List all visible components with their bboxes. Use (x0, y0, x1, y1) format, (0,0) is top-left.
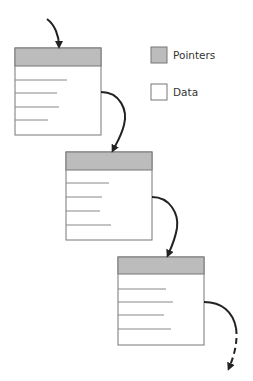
legend-swatch-pointers (151, 47, 167, 63)
list-node-2 (66, 152, 152, 240)
next-pointer-arrow-2 (152, 197, 177, 255)
next-pointer-arrow-1 (101, 92, 125, 150)
list-node-3 (118, 257, 204, 345)
list-node-1 (15, 48, 101, 135)
pointer-field (66, 152, 152, 170)
pointer-field (118, 257, 204, 274)
legend-label-data: Data (173, 86, 198, 98)
next-pointer-arrow-3-dashed (229, 328, 237, 368)
pointer-field (15, 48, 101, 66)
next-pointer-arrow-3-solid (204, 302, 236, 328)
legend-swatch-data (151, 84, 167, 100)
head-pointer-arrow (47, 19, 59, 46)
legend-label-pointers: Pointers (173, 49, 215, 61)
